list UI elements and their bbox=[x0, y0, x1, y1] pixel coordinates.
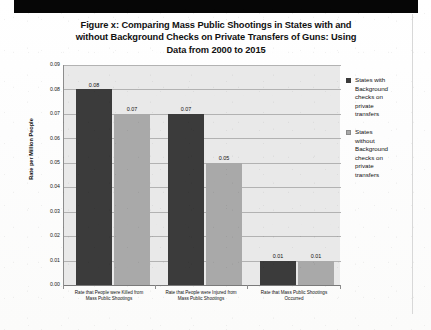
x-category-occurred: Rate that Mass Public Shootings Occurred bbox=[242, 290, 346, 302]
legend-label-without-checks-line-4: checks on bbox=[355, 154, 412, 163]
scanned-document-page: Figure x: Comparing Mass Public Shooting… bbox=[0, 0, 431, 330]
bar-value-injured-with-checks: 0.07 bbox=[168, 107, 204, 112]
chart-title-line-3: Data from 2000 to 2015 bbox=[56, 44, 376, 56]
x-category-killed: Rate that People were Killed from Mass P… bbox=[57, 290, 161, 302]
x-category-occurred-line-2: Occurred bbox=[242, 296, 346, 302]
plot-area: 0.08 0.07 0.07 0.05 0.01 0.01 bbox=[63, 65, 340, 285]
bar-killed-with-checks[interactable] bbox=[76, 89, 112, 285]
x-category-injured-line-2: Mass Public Shootings bbox=[149, 296, 253, 302]
legend-label-without-checks-line-3: Background bbox=[355, 145, 412, 154]
chart-title-line-1: Figure x: Comparing Mass Public Shooting… bbox=[56, 19, 376, 31]
y-tick-0.08: 0.08 bbox=[20, 87, 60, 92]
bar-injured-without-checks[interactable] bbox=[206, 163, 242, 285]
bar-chart: Figure x: Comparing Mass Public Shooting… bbox=[16, 16, 412, 316]
bar-injured-with-checks[interactable] bbox=[168, 114, 204, 285]
bar-value-injured-without-checks: 0.05 bbox=[206, 156, 242, 161]
chart-title: Figure x: Comparing Mass Public Shooting… bbox=[56, 19, 376, 56]
bar-occurred-without-checks[interactable] bbox=[298, 261, 334, 285]
legend-label-without-checks-line-2: without bbox=[355, 137, 412, 146]
legend-label-with-checks-line-3: checks on bbox=[355, 93, 412, 102]
bar-occurred-with-checks[interactable] bbox=[260, 261, 296, 285]
bar-killed-without-checks[interactable] bbox=[114, 114, 150, 285]
bar-group-injured: 0.07 0.05 bbox=[166, 65, 246, 285]
legend-label-without-checks-line-1: States bbox=[355, 128, 412, 137]
page-right-border-rule bbox=[412, 14, 413, 314]
x-axis-tick-1 bbox=[155, 285, 156, 289]
y-tick-0.00: 0.00 bbox=[20, 282, 60, 287]
legend-label-with-checks-line-1: States with bbox=[355, 76, 412, 85]
x-axis-tick-end bbox=[340, 285, 341, 289]
chart-legend: States with Background checks on private… bbox=[346, 76, 412, 189]
x-axis-line bbox=[63, 285, 341, 286]
bar-value-killed-with-checks: 0.08 bbox=[76, 83, 112, 88]
bar-group-occurred: 0.01 0.01 bbox=[258, 65, 338, 285]
legend-label-without-checks-line-5: private bbox=[355, 162, 412, 171]
y-tick-0.04: 0.04 bbox=[20, 184, 60, 189]
y-tick-0.07: 0.07 bbox=[20, 111, 60, 116]
y-axis-title: Rate per Million People bbox=[28, 101, 34, 197]
y-tick-0.09: 0.09 bbox=[20, 62, 60, 67]
y-tick-0.01: 0.01 bbox=[20, 258, 60, 263]
legend-label-with-checks-line-5: transfers bbox=[355, 110, 412, 119]
bar-value-occurred-with-checks: 0.01 bbox=[260, 254, 296, 259]
x-category-injured: Rate that People were Injured from Mass … bbox=[149, 290, 253, 302]
legend-swatch-icon-with-checks bbox=[346, 78, 351, 83]
x-axis-tick-start bbox=[63, 285, 64, 289]
y-tick-0.05: 0.05 bbox=[20, 160, 60, 165]
legend-label-with-checks-line-4: private bbox=[355, 102, 412, 111]
page-top-black-banner bbox=[14, 0, 418, 13]
y-tick-0.06: 0.06 bbox=[20, 136, 60, 141]
chart-title-line-2: without Background Checks on Private Tra… bbox=[56, 31, 376, 43]
legend-item-without-checks[interactable]: States without Background checks on priv… bbox=[346, 128, 412, 180]
x-axis-tick-2 bbox=[247, 285, 248, 289]
legend-label-with-checks-line-2: Background bbox=[355, 85, 412, 94]
bar-group-killed: 0.08 0.07 bbox=[74, 65, 154, 285]
legend-swatch-icon-without-checks bbox=[346, 130, 351, 135]
bar-value-occurred-without-checks: 0.01 bbox=[298, 254, 334, 259]
bar-value-killed-without-checks: 0.07 bbox=[114, 107, 150, 112]
legend-item-with-checks[interactable]: States with Background checks on private… bbox=[346, 76, 412, 119]
y-tick-0.02: 0.02 bbox=[20, 233, 60, 238]
y-tick-0.03: 0.03 bbox=[20, 209, 60, 214]
legend-label-without-checks-line-6: transfers bbox=[355, 171, 412, 180]
y-axis-tick-labels: 0.09 0.08 0.07 0.06 0.05 0.04 0.03 0.02 … bbox=[16, 65, 60, 285]
x-category-killed-line-2: Mass Public Shootings bbox=[57, 296, 161, 302]
